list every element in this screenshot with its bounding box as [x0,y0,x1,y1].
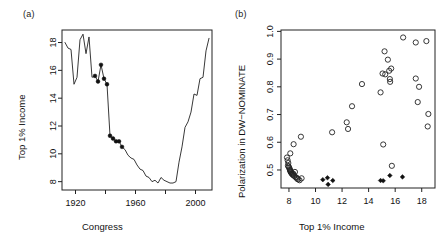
panel-b-y-axis-title: Polarization in DW−NOMINATE [236,65,247,198]
panel-b-ytick-label: 0.8 [265,81,275,94]
panel-b-point-filled-diamond [321,177,326,182]
panel-b-point-open-circle [359,81,364,86]
panel-b-point-open-circle [413,76,418,81]
panel-b-xtick-label: 10 [311,196,321,206]
panel-a-xtick-label: 1920 [65,198,85,208]
panel-b-point-open-circle [344,120,349,125]
panel-a-highlight-point [99,63,103,67]
panel-b: (b) Polarization in DW−NOMINATE Top 1% I… [223,0,446,247]
panel-a-ytick-label: 10 [48,149,58,159]
panel-b-point-open-circle [415,99,420,104]
panel-a-frame [62,30,212,190]
panel-b-point-open-circle [382,49,387,54]
panel-b-point-open-circle [291,142,296,147]
panel-b-plot: 810121416180.50.60.70.80.91.0 [223,0,446,247]
panel-a-highlight-point [102,77,106,81]
panel-b-point-open-circle [288,151,293,156]
panel-b-point-open-circle [349,104,354,109]
panel-b-ytick-label: 0.5 [265,164,275,177]
panel-b-point-filled-diamond [325,175,330,180]
panel-a-ytick-label: 8 [48,179,58,184]
panel-a-tag: (a) [23,9,35,19]
panel-b-point-open-circle [385,57,390,62]
panel-b-point-open-circle [345,126,350,131]
panel-b-frame [281,30,435,188]
panel-a-series-line [65,34,209,183]
panel-b-point-open-circle [378,90,383,95]
panel-b-xtick-label: 16 [390,196,400,206]
panel-b-point-open-circle [298,134,303,139]
panel-a-ytick-label: 12 [48,121,58,131]
panel-b-point-open-circle [424,38,429,43]
panel-b-tag: (b) [235,9,247,19]
figure-root: (a) Top 1% Income Congress 1920196020008… [0,0,447,247]
panel-a-ytick-label: 14 [48,93,58,103]
panel-b-ytick-label: 0.7 [265,108,275,121]
panel-b-point-open-circle [425,124,430,129]
panel-a-highlight-point [117,139,121,143]
panel-b-x-axis-title: Top 1% Income [299,221,364,232]
panel-b-point-filled-diamond [330,178,335,183]
panel-a-highlight-point [120,145,124,149]
panel-b-ytick-label: 0.6 [265,136,275,149]
panel-a-highlight-point [111,137,115,141]
panel-a-ytick-label: 16 [48,65,58,75]
panel-a-x-axis-title: Congress [82,221,123,232]
panel-b-point-open-circle [330,130,335,135]
panel-b-xtick-label: 18 [417,196,427,206]
panel-b-xtick-label: 12 [337,196,347,206]
panel-b-point-open-circle [416,84,421,89]
panel-b-point-filled-diamond [388,173,393,178]
panel-a-highlight-point [93,74,97,78]
panel-a-highlight-point [105,82,109,86]
panel-b-ytick-label: 0.9 [265,53,275,66]
panel-b-point-filled-diamond [400,175,405,180]
panel-a-highlight-point [96,80,100,84]
panel-a: (a) Top 1% Income Congress 1920196020008… [0,0,223,247]
panel-b-ytick-label: 1.0 [265,25,275,38]
panel-b-point-open-circle [389,163,394,168]
panel-b-point-filled-diamond [326,182,331,187]
panel-a-xtick-label: 1960 [125,198,145,208]
panel-b-point-open-circle [401,35,406,40]
panel-b-point-open-circle [381,142,386,147]
panel-a-plot: 19201960200081012141618 [0,0,223,247]
panel-b-xtick-label: 8 [286,196,291,206]
panel-a-y-axis-title: Top 1% Income [16,95,27,160]
panel-a-xtick-label: 2000 [185,198,205,208]
panel-a-highlight-point [108,134,112,138]
panel-b-point-open-circle [426,111,431,116]
panel-a-ytick-label: 18 [48,38,58,48]
panel-b-point-open-circle [413,40,418,45]
panel-b-xtick-label: 14 [364,196,374,206]
